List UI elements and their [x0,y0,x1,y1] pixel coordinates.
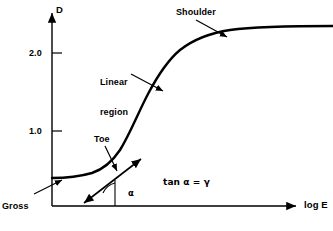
alpha-angle-label: α [128,188,134,198]
linear-region-label: Linear region [100,57,128,137]
toe-leader-line [105,146,117,171]
gamma-equation-label: tan α = γ [163,177,210,187]
y-tick-label-1-0: 1.0 [29,126,42,136]
linear-region-label-line1: Linear [100,77,128,87]
gross-fog-label: Gross fog [2,181,29,231]
gross-fog-label-line1: Gross [2,201,29,211]
characteristic-curve-path [52,26,333,178]
characteristic-curve-figure: D log E 2.0 1.0 Shoulder Linear region T… [0,0,333,231]
toe-label: Toe [94,134,110,144]
linear-region-label-line2: region [100,107,128,117]
gross-fog-leader-line [34,180,62,194]
shoulder-label: Shoulder [176,7,216,17]
figure-canvas [0,0,333,231]
y-tick-label-2-0: 2.0 [29,48,42,58]
y-axis-label: D [56,5,63,15]
x-axis-label: log E [304,200,328,210]
